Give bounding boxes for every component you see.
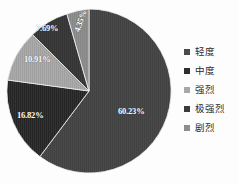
legend-item-qingdu[interactable]: 轻度 bbox=[183, 42, 239, 61]
slice-value-label-jiqianglie: 7.69% bbox=[36, 23, 58, 33]
legend-label-lielie: 剧烈 bbox=[195, 123, 215, 133]
slice-value-label-qianglie: 10.91% bbox=[24, 54, 50, 64]
legend-label-zhongdu: 中度 bbox=[195, 66, 215, 76]
slice-value-label-qingdu: 60.23% bbox=[118, 106, 144, 116]
legend-swatch-icon-qianglie bbox=[184, 87, 190, 93]
legend-item-lielie[interactable]: 剧烈 bbox=[183, 118, 239, 137]
legend-swatch-icon-lielie bbox=[184, 125, 190, 131]
pie-svg bbox=[0, 0, 180, 184]
legend-label-qianglie: 强烈 bbox=[195, 85, 215, 95]
legend-label-qingdu: 轻度 bbox=[195, 47, 215, 57]
legend-item-qianglie[interactable]: 强烈 bbox=[183, 80, 239, 99]
legend-label-jiqianglie: 极强烈 bbox=[195, 104, 225, 114]
legend-swatch-icon-jiqianglie bbox=[184, 106, 190, 112]
pie-plot-area: 60.23% 16.82% 10.91% 7.69% 4.35% bbox=[0, 0, 180, 184]
legend-item-zhongdu[interactable]: 中度 bbox=[183, 61, 239, 80]
legend-swatch-icon-qingdu bbox=[184, 49, 190, 55]
legend: 轻度 中度 强烈 极强烈 剧烈 bbox=[183, 42, 239, 137]
slice-value-label-zhongdu: 16.82% bbox=[17, 110, 43, 120]
pie-chart-figure: 60.23% 16.82% 10.91% 7.69% 4.35% 轻度 中度 强… bbox=[0, 0, 239, 184]
legend-swatch-icon-zhongdu bbox=[184, 68, 190, 74]
legend-item-jiqianglie[interactable]: 极强烈 bbox=[183, 99, 239, 118]
